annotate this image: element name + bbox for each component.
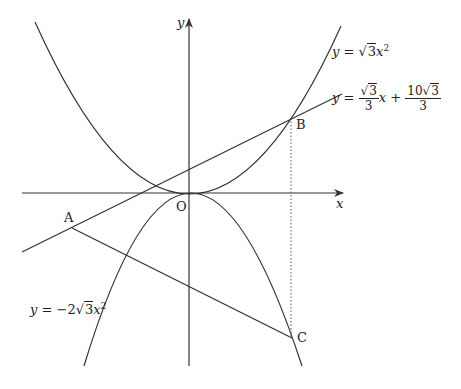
figure-canvas (0, 0, 461, 389)
upper-parabola-label: y = √3x2 (332, 44, 389, 58)
point-label-A: A (64, 211, 73, 224)
origin-label: O (176, 200, 187, 213)
lower-parabola-label: y = −2√3x2 (30, 302, 106, 316)
point-label-C: C (297, 331, 307, 344)
line-label: y = √33x + 10√33 (332, 85, 441, 112)
upper-parabola (35, 22, 341, 194)
lower-parabola (84, 193, 302, 366)
segment-AC (72, 228, 292, 338)
x-axis-label: x (336, 197, 343, 210)
point-label-B: B (296, 118, 306, 131)
y-axis-label: y (177, 16, 184, 29)
line-AB (22, 94, 342, 252)
